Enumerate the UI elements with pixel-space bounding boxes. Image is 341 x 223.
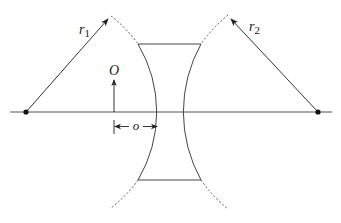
label-r1-sub: 1 xyxy=(84,27,90,39)
right-surface-dashed-bottom xyxy=(201,180,228,209)
thick-lens-diagram: r1 r2 O o xyxy=(0,0,341,223)
label-object-distance: o xyxy=(133,118,140,133)
left-surface-dashed-top xyxy=(111,16,138,44)
radius-r1-arrow xyxy=(26,19,108,112)
radius-r2-arrow xyxy=(231,19,318,112)
label-r2-sub: 2 xyxy=(254,24,260,36)
right-center-of-curvature-dot xyxy=(315,109,320,114)
left-surface-dashed-bottom xyxy=(111,180,138,208)
left-center-of-curvature-dot xyxy=(23,109,28,114)
right-surface-dashed-top xyxy=(201,15,228,44)
label-r2: r2 xyxy=(249,19,260,36)
label-r1: r1 xyxy=(79,22,90,39)
label-object: O xyxy=(109,63,119,78)
